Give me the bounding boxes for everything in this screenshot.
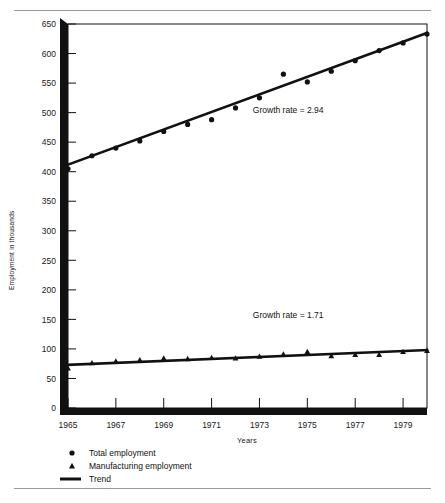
legend-triangle-icon — [69, 463, 75, 469]
legend-label: Manufacturing employment — [89, 461, 192, 471]
point-total-employment — [329, 69, 334, 74]
point-total-employment — [161, 129, 166, 134]
x-tick-label: 1979 — [394, 420, 413, 430]
point-total-employment — [281, 72, 286, 77]
y-tick-label: 100 — [42, 344, 56, 354]
x-axis-title: Years — [237, 436, 257, 445]
plot-frame — [60, 18, 427, 415]
point-total-employment — [65, 166, 70, 171]
y-tick-label: 300 — [42, 226, 56, 236]
y-tick-label: 400 — [42, 167, 56, 177]
y-tick-label: 250 — [42, 256, 56, 266]
annotation-growth-rate-1: Growth rate = 2.94 — [253, 105, 324, 115]
x-tick-label: 1975 — [298, 420, 317, 430]
x-tick-label: 1967 — [106, 420, 125, 430]
x-tick-label: 1965 — [59, 420, 78, 430]
y-tick-label: 500 — [42, 108, 56, 118]
y-tick-label: 50 — [47, 374, 57, 384]
y-tick-label: 350 — [42, 196, 56, 206]
y-tick-label: 0 — [51, 403, 56, 413]
point-total-employment — [137, 138, 142, 143]
point-total-employment — [113, 145, 118, 150]
point-total-employment — [233, 105, 238, 110]
x-tick-label: 1977 — [346, 420, 365, 430]
point-total-employment — [400, 40, 405, 45]
legend-label: Total employment — [89, 448, 156, 458]
chart-legend: Total employmentManufacturing employment… — [60, 448, 192, 484]
x-tick-label: 1969 — [154, 420, 173, 430]
point-total-employment — [89, 153, 94, 158]
annotation-growth-rate-2: Growth rate = 1.71 — [253, 310, 324, 320]
y-tick-label: 650 — [42, 19, 56, 29]
x-tick-label: 1971 — [202, 420, 221, 430]
y-tick-label: 200 — [42, 285, 56, 295]
plot-area-background — [68, 24, 427, 408]
point-total-employment — [305, 79, 310, 84]
y-tick-label: 150 — [42, 315, 56, 325]
y-tick-label: 550 — [42, 78, 56, 88]
legend-circle-icon — [69, 450, 74, 455]
point-total-employment — [377, 48, 382, 53]
point-total-employment — [353, 58, 358, 63]
employment-trend-chart: 050100150200250300350400450500550600650 … — [0, 0, 445, 503]
point-total-employment — [257, 95, 262, 100]
y-tick-label: 450 — [42, 137, 56, 147]
y-axis-title: Employment in thousands — [8, 210, 16, 290]
x-axis-3d-bar — [60, 408, 427, 415]
y-tick-label: 600 — [42, 49, 56, 59]
y-axis-3d-bar — [60, 18, 68, 408]
point-total-employment — [185, 122, 190, 127]
figure: 050100150200250300350400450500550600650 … — [0, 0, 445, 503]
x-tick-label: 1973 — [250, 420, 269, 430]
point-total-employment — [424, 31, 429, 36]
point-total-employment — [209, 117, 214, 122]
legend-label: Trend — [89, 474, 111, 484]
